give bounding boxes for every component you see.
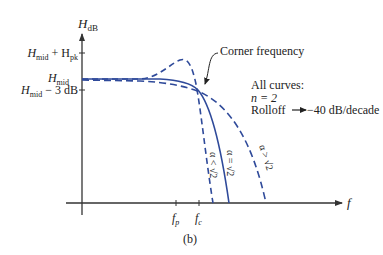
curve-label-alpha-greater: α > √2 [257,143,276,171]
corner-frequency-arrow [205,53,218,84]
x-axis-label: f [347,195,353,210]
curve-alpha-equals-root2 [82,79,229,203]
y-tick-label-hmid-plus-hpk: Hmid + Hpk [26,46,78,62]
figure-caption: (b) [183,232,197,246]
x-tick-label-fc: fc [195,211,202,227]
curve-alpha-less-than-root2 [82,59,213,203]
x-tick-label-fp: fp [172,211,179,227]
corner-frequency-label: Corner frequency [220,44,304,58]
all-curves-label: All curves: [251,78,304,92]
curve-label-alpha-less: α < √2 [208,152,219,178]
y-tick-label-hmid-minus-3db: Hmid − 3 dB [20,83,78,99]
rolloff-label: Rolloff [251,103,285,117]
curve-alpha-greater-than-root2 [82,80,266,203]
y-axis-label: HdB [77,16,98,33]
frequency-response-diagram: HdB Hmid + Hpk Hmid Hmid − 3 dB f fp fc … [0,0,383,255]
curve-label-alpha-equal: α = √2 [225,150,236,176]
rolloff-value: −40 dB/decade [307,103,379,117]
